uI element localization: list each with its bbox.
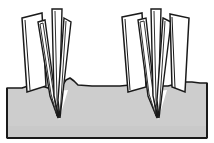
ground-shadow-band	[8, 126, 206, 137]
wedge-indentation-diagram: Wedge indentation into substrate Line dr…	[0, 0, 214, 143]
figure-container: Wedge indentation into substrate Line dr…	[0, 0, 214, 143]
